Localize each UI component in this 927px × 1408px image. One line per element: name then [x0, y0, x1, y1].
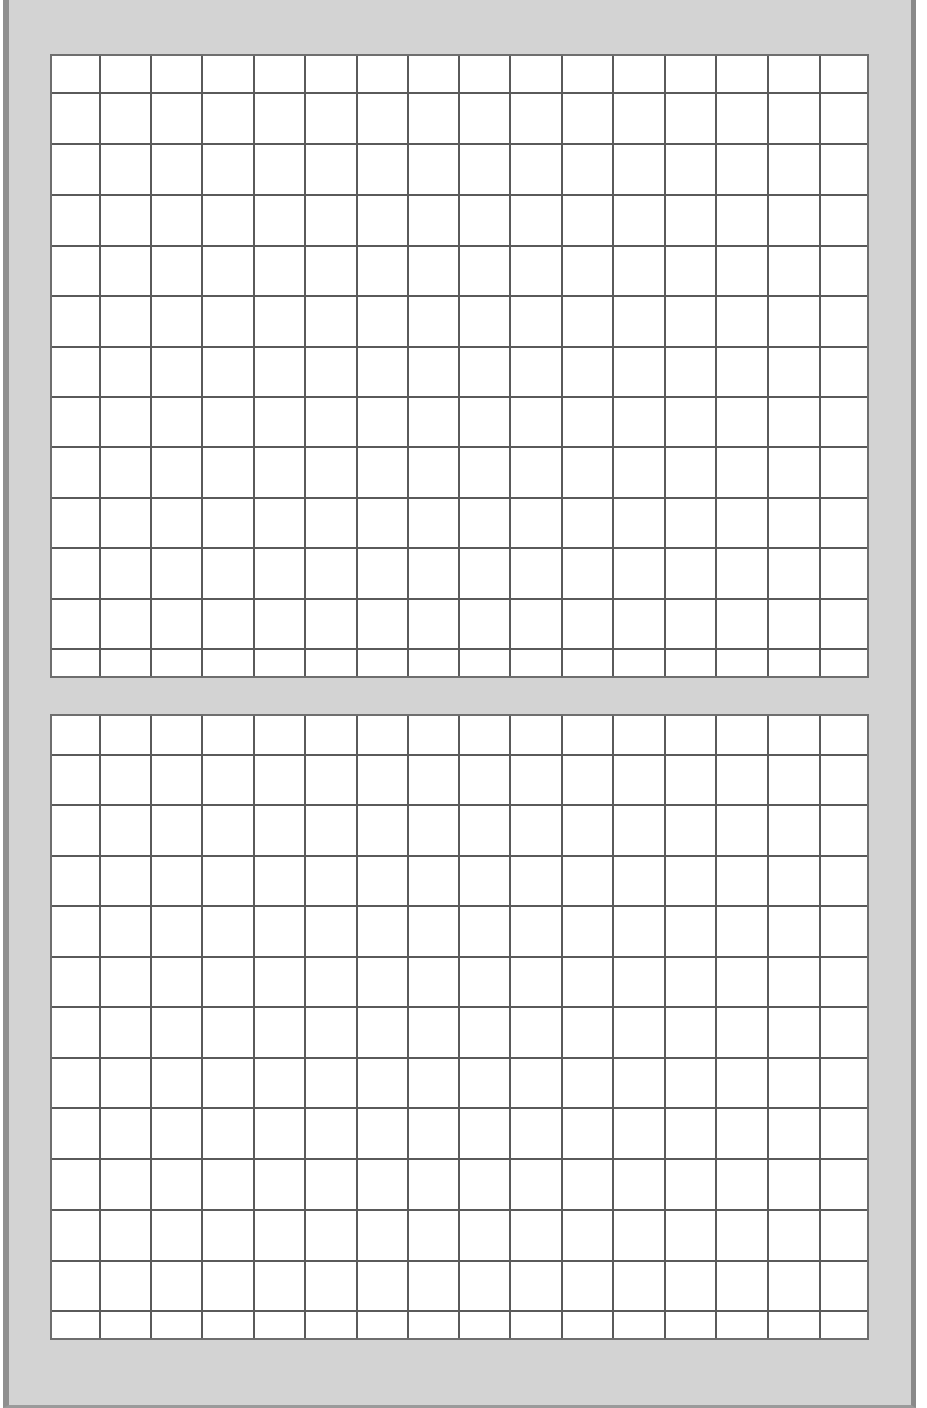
grid-horizontal-line [52, 648, 867, 650]
grid-horizontal-line [52, 1209, 867, 1211]
grid-vertical-line [664, 56, 666, 676]
grid-vertical-line [561, 716, 563, 1338]
grid-horizontal-line [52, 396, 867, 398]
grid-vertical-line [612, 56, 614, 676]
grid-horizontal-line [52, 1006, 867, 1008]
grid-vertical-line [150, 56, 152, 676]
grid-horizontal-line [52, 143, 867, 145]
grid-vertical-line [767, 716, 769, 1338]
grid-vertical-line [201, 716, 203, 1338]
bottom-grid [50, 714, 869, 1340]
grid-horizontal-line [52, 547, 867, 549]
grid-horizontal-line [52, 1107, 867, 1109]
grid-horizontal-line [52, 245, 867, 247]
grid-vertical-line [612, 716, 614, 1338]
grid-horizontal-line [52, 754, 867, 756]
grid-vertical-line [561, 56, 563, 676]
grid-horizontal-line [52, 1310, 867, 1312]
grid-horizontal-line [52, 295, 867, 297]
grid-vertical-line [458, 716, 460, 1338]
grid-horizontal-line [52, 346, 867, 348]
grid-vertical-line [819, 56, 821, 676]
grid-horizontal-line [52, 804, 867, 806]
grid-vertical-line [304, 56, 306, 676]
grid-vertical-line [253, 716, 255, 1338]
grid-vertical-line [99, 716, 101, 1338]
grid-horizontal-line [52, 598, 867, 600]
grid-vertical-line [201, 56, 203, 676]
grid-vertical-line [356, 56, 358, 676]
grid-vertical-line [509, 56, 511, 676]
grid-vertical-line [253, 56, 255, 676]
grid-horizontal-line [52, 1158, 867, 1160]
top-grid [50, 54, 869, 678]
grid-vertical-line [407, 716, 409, 1338]
grid-vertical-line [99, 56, 101, 676]
grid-horizontal-line [52, 92, 867, 94]
grid-horizontal-line [52, 905, 867, 907]
grid-vertical-line [356, 716, 358, 1338]
grid-vertical-line [819, 716, 821, 1338]
grid-horizontal-line [52, 1260, 867, 1262]
grid-horizontal-line [52, 194, 867, 196]
grid-horizontal-line [52, 1057, 867, 1059]
grid-vertical-line [304, 716, 306, 1338]
grid-vertical-line [407, 56, 409, 676]
grid-horizontal-line [52, 497, 867, 499]
grid-vertical-line [509, 716, 511, 1338]
grid-horizontal-line [52, 855, 867, 857]
grid-horizontal-line [52, 956, 867, 958]
grid-vertical-line [150, 716, 152, 1338]
grid-horizontal-line [52, 446, 867, 448]
grid-vertical-line [715, 716, 717, 1338]
grid-vertical-line [664, 716, 666, 1338]
grid-vertical-line [715, 56, 717, 676]
grid-vertical-line [767, 56, 769, 676]
grid-vertical-line [458, 56, 460, 676]
